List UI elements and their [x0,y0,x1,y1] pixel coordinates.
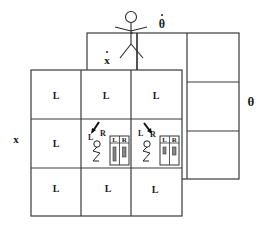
dot-accent [161,14,163,16]
dot-accent [106,51,108,53]
panel-left-label: L [112,136,117,144]
svg-text:θ: θ [159,17,165,31]
lr-control-panel-icon: L R [110,136,129,165]
cell-label: L [53,138,60,149]
state-space-diagram: L L L L L L L x x θ θ L [0,0,264,228]
cell-label: L [103,90,110,101]
svg-text:x: x [104,54,110,66]
stick-figure-icon [115,12,147,71]
push-left-label: L [88,133,93,142]
cell-label: L [53,183,60,194]
theta-dot-axis-label: θ [159,14,165,31]
cell-label: L [152,184,159,195]
theta-axis-label: θ [248,94,255,109]
push-right-label: R [100,129,106,138]
push-left-label: L [138,129,143,138]
lr-control-panel-icon: L R [160,136,179,165]
panel-left-label: L [162,136,167,144]
x-axis-label: x [13,133,19,145]
push-right-label: R [150,130,156,139]
cell-label: L [153,90,160,101]
cell-label: L [53,90,60,101]
cell-label: L [105,183,112,194]
x-dot-axis-label: x [104,51,110,66]
